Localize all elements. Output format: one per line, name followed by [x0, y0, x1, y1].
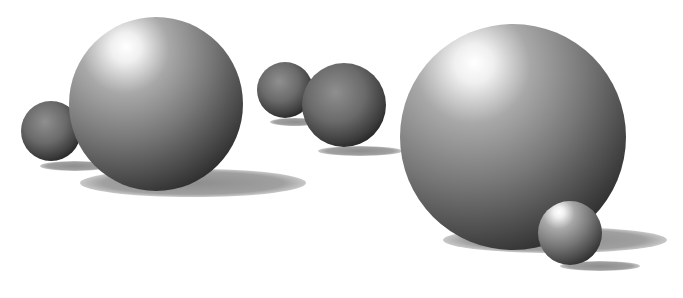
- small-right-sphere: [538, 201, 602, 265]
- medium-middle-sphere: [302, 63, 386, 147]
- spheres-layer: [21, 17, 626, 265]
- medium-middle-shadow: [318, 146, 402, 156]
- large-left-sphere: [69, 17, 243, 191]
- spheres-scene: [0, 0, 683, 298]
